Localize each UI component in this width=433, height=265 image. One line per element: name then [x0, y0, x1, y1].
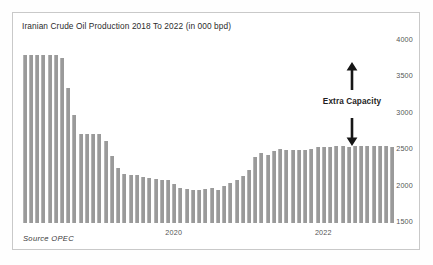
y-tick-label: 1500 — [383, 217, 413, 226]
bar — [266, 155, 270, 223]
bar — [334, 146, 338, 223]
bar — [160, 180, 164, 223]
bar — [316, 147, 320, 223]
bar — [141, 177, 145, 223]
bar — [172, 184, 176, 223]
bar — [29, 55, 33, 223]
bar — [41, 55, 45, 223]
bar — [272, 151, 276, 223]
bar — [359, 146, 363, 223]
bar — [97, 134, 101, 223]
bar — [253, 157, 257, 223]
bar — [191, 190, 195, 223]
bar — [79, 134, 83, 223]
bar — [222, 186, 226, 223]
bar — [166, 180, 170, 223]
bar — [178, 188, 182, 223]
bar — [247, 170, 251, 223]
bar — [259, 153, 263, 223]
bar — [372, 146, 376, 223]
bar — [228, 183, 232, 223]
bar — [147, 178, 151, 223]
chart-page: Iranian Crude Oil Production 2018 To 202… — [0, 0, 433, 265]
up-arrow-icon — [345, 59, 359, 91]
bar — [203, 189, 207, 223]
bar — [91, 134, 95, 223]
chart-frame: Iranian Crude Oil Production 2018 To 202… — [12, 12, 420, 250]
y-tick-label: 4000 — [383, 35, 413, 44]
bar — [54, 55, 58, 223]
bar — [291, 150, 295, 223]
extra-capacity-annotation: Extra Capacity — [296, 59, 408, 155]
bar — [110, 156, 114, 223]
source-note: Source OPEC — [23, 234, 74, 243]
down-arrow-icon — [345, 117, 359, 149]
y-tick-label: 2000 — [383, 181, 413, 190]
bar — [185, 189, 189, 223]
bar — [72, 115, 76, 223]
bar — [328, 147, 332, 223]
bar — [378, 146, 382, 223]
bar — [353, 146, 357, 223]
bar — [278, 149, 282, 223]
bar — [85, 134, 89, 223]
bar — [210, 188, 214, 223]
x-tick-label: 2020 — [165, 228, 182, 237]
bar — [341, 146, 345, 223]
bar — [347, 147, 351, 223]
bar — [297, 150, 301, 223]
bar — [116, 168, 120, 223]
bar — [122, 174, 126, 224]
bar — [303, 150, 307, 223]
bar — [322, 147, 326, 223]
bar — [23, 55, 27, 223]
bar — [35, 55, 39, 223]
bar — [129, 175, 133, 223]
bar — [309, 149, 313, 223]
bar — [135, 175, 139, 223]
bar — [104, 141, 108, 223]
bar — [216, 190, 220, 223]
x-tick-label: 2022 — [315, 228, 332, 237]
bar — [197, 190, 201, 223]
bar — [241, 176, 245, 223]
bar — [154, 179, 158, 223]
bar — [365, 146, 369, 223]
bar — [66, 88, 70, 223]
bar — [235, 180, 239, 223]
annotation-label: Extra Capacity — [296, 97, 408, 106]
bar — [48, 55, 52, 223]
bar — [60, 58, 64, 223]
bar — [284, 150, 288, 223]
